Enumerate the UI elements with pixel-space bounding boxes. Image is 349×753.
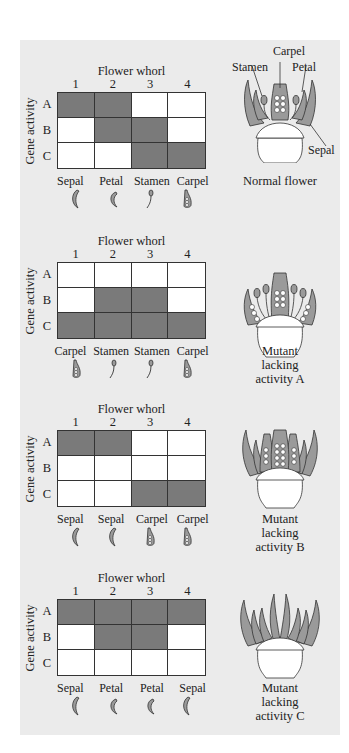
column-number: 3: [132, 247, 169, 262]
column-number: 4: [169, 247, 206, 262]
column-number: 3: [132, 77, 169, 92]
caption-line: activity C: [222, 709, 338, 723]
inactive-cell: [58, 118, 95, 143]
row-label: A: [40, 599, 54, 625]
inactive-cell: [58, 288, 95, 313]
mutant-c-flower-illustration: [222, 586, 338, 681]
organ-label: Petal: [91, 681, 132, 696]
abc-panel-2: Flower whorl1234Gene activityABCCarpelSt…: [0, 170, 349, 340]
y-axis-title: Gene activity: [22, 92, 38, 169]
active-cell: [95, 600, 132, 625]
active-cell: [95, 313, 132, 338]
inactive-cell: [132, 93, 169, 118]
gene-activity-grid: [57, 599, 206, 676]
column-number: 2: [94, 584, 131, 599]
petal-icon: [144, 696, 156, 716]
inactive-cell: [132, 456, 169, 481]
row-label: A: [40, 262, 54, 288]
active-cell: [95, 93, 132, 118]
row-label: C: [40, 313, 54, 339]
active-cell: [168, 313, 205, 338]
column-number: 3: [132, 415, 169, 430]
organ-label: Sepal: [172, 681, 213, 696]
inactive-cell: [132, 431, 169, 456]
row-labels: ABC: [40, 92, 54, 169]
active-cell: [58, 93, 95, 118]
active-cell: [95, 118, 132, 143]
organ-labels: SepalPetalPetalSepal: [50, 681, 213, 696]
inactive-cell: [168, 431, 205, 456]
column-number: 4: [169, 415, 206, 430]
callout-stamen: Stamen: [232, 60, 268, 75]
active-cell: [58, 313, 95, 338]
inactive-cell: [58, 263, 95, 288]
inactive-cell: [168, 625, 205, 650]
row-labels: ABC: [40, 262, 54, 339]
inactive-cell: [168, 650, 205, 675]
flower-caption: Mutantlackingactivity C: [222, 681, 338, 723]
sepal-icon: [70, 696, 82, 716]
inactive-cell: [58, 650, 95, 675]
inactive-cell: [168, 456, 205, 481]
callout-carpel: Carpel: [273, 44, 305, 59]
y-axis-title: Gene activity: [22, 430, 38, 507]
row-label: A: [40, 92, 54, 118]
column-number: 3: [132, 584, 169, 599]
sepal-icon: [181, 696, 193, 716]
column-numbers: 1234: [57, 415, 206, 430]
inactive-cell: [132, 650, 169, 675]
abc-panel-3: Flower whorl1234Gene activityABCSepalSep…: [0, 338, 349, 508]
organ-label: Petal: [132, 681, 173, 696]
row-label: C: [40, 481, 54, 507]
column-number: 1: [57, 584, 94, 599]
inactive-cell: [132, 263, 169, 288]
caption-line: Mutant: [222, 681, 338, 695]
inactive-cell: [168, 93, 205, 118]
active-cell: [58, 600, 95, 625]
y-axis-title: Gene activity: [22, 262, 38, 339]
gene-activity-grid: [57, 430, 206, 507]
caption-line: lacking: [222, 695, 338, 709]
active-cell: [132, 143, 169, 168]
row-label: B: [40, 288, 54, 314]
column-numbers: 1234: [57, 247, 206, 262]
active-cell: [168, 143, 205, 168]
inactive-cell: [58, 143, 95, 168]
active-cell: [168, 600, 205, 625]
inactive-cell: [168, 118, 205, 143]
column-number: 1: [57, 77, 94, 92]
row-label: B: [40, 625, 54, 651]
active-cell: [132, 625, 169, 650]
callout-petal: Petal: [292, 60, 316, 75]
active-cell: [95, 625, 132, 650]
column-number: 4: [169, 584, 206, 599]
inactive-cell: [58, 625, 95, 650]
row-labels: ABC: [40, 430, 54, 507]
active-cell: [132, 313, 169, 338]
active-cell: [132, 600, 169, 625]
active-cell: [132, 118, 169, 143]
inactive-cell: [168, 263, 205, 288]
active-cell: [132, 288, 169, 313]
gene-activity-grid: [57, 92, 206, 169]
column-numbers: 1234: [57, 584, 206, 599]
row-label: A: [40, 430, 54, 456]
column-number: 1: [57, 415, 94, 430]
callout-sepal: Sepal: [308, 143, 335, 158]
inactive-cell: [58, 456, 95, 481]
inactive-cell: [95, 481, 132, 506]
inactive-cell: [95, 456, 132, 481]
inactive-cell: [95, 143, 132, 168]
active-cell: [168, 481, 205, 506]
row-labels: ABC: [40, 599, 54, 676]
row-label: C: [40, 650, 54, 676]
row-label: C: [40, 143, 54, 169]
organ-label: Sepal: [50, 681, 91, 696]
active-cell: [58, 431, 95, 456]
petal-icon: [107, 696, 119, 716]
mutant-b-flower-illustration: [222, 416, 338, 511]
inactive-cell: [168, 288, 205, 313]
abc-panel-1: Flower whorl1234Gene activityABCSepalPet…: [0, 0, 349, 170]
column-number: 2: [94, 247, 131, 262]
row-label: B: [40, 456, 54, 482]
